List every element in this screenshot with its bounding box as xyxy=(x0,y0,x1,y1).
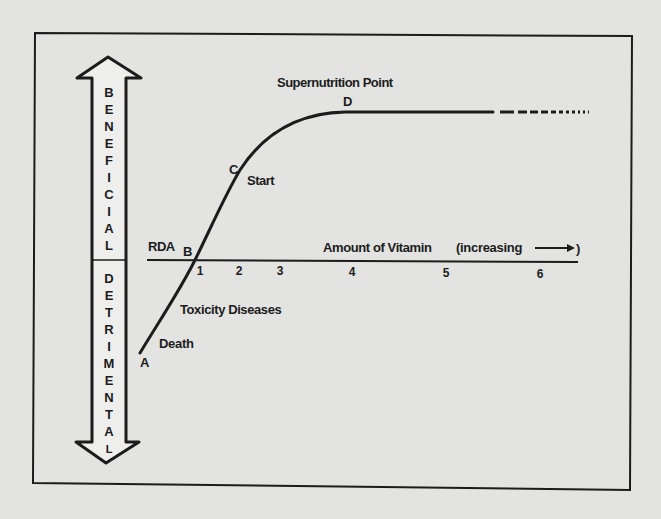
tick-label: 2 xyxy=(236,264,243,278)
x-axis-direction-note: (increasing xyxy=(456,240,522,255)
detrimental-letter: E xyxy=(105,288,114,303)
x-axis-ticks: 1 2 3 4 5 6 xyxy=(197,264,544,281)
detrimental-letter: A xyxy=(104,424,114,439)
detrimental-letter: T xyxy=(105,407,113,422)
beneficial-letter: N xyxy=(104,119,113,134)
beneficial-letter: F xyxy=(105,153,113,168)
beneficial-letter: E xyxy=(105,102,114,117)
detrimental-letter: E xyxy=(105,373,114,388)
beneficial-letter: E xyxy=(105,136,114,151)
point-d-letter: D xyxy=(343,94,352,109)
tick-label: 1 xyxy=(197,264,204,278)
beneficial-letter: A xyxy=(104,221,114,236)
detrimental-letter: R xyxy=(104,322,114,337)
vitamin-response-diagram: B E N E F I C I A L D E T R I M E N T A … xyxy=(0,0,661,519)
point-c-letter: C xyxy=(229,162,239,177)
detrimental-letter: I xyxy=(107,339,111,354)
beneficial-letter: L xyxy=(105,238,113,253)
tick-label: 5 xyxy=(443,266,450,280)
beneficial-letter: C xyxy=(104,187,114,202)
detrimental-letter: N xyxy=(104,390,113,405)
tick-label: 6 xyxy=(537,267,544,281)
point-a-label: Death xyxy=(159,336,194,351)
point-d-label: Supernutrition Point xyxy=(277,75,394,90)
toxicity-diseases-label: Toxicity Diseases xyxy=(180,302,282,317)
detrimental-label: D E T R I M E N T A L xyxy=(104,271,115,455)
beneficial-letter: I xyxy=(107,204,111,219)
x-axis-line xyxy=(147,260,578,262)
increasing-arrow-icon xyxy=(535,244,575,252)
x-axis-title: Amount of Vitamin xyxy=(323,240,432,255)
point-b-label: RDA xyxy=(148,239,176,254)
beneficial-letter: B xyxy=(104,85,113,100)
x-axis-close-paren: ) xyxy=(576,241,580,256)
detrimental-letter: D xyxy=(104,271,113,286)
detrimental-letter: M xyxy=(104,356,115,371)
point-b-letter: B xyxy=(183,244,192,259)
beneficial-letter: I xyxy=(107,170,111,185)
tick-label: 3 xyxy=(277,264,284,278)
tick-label: 4 xyxy=(349,265,356,279)
point-a-letter: A xyxy=(140,355,150,370)
point-c-label: Start xyxy=(247,173,275,188)
detrimental-letter: T xyxy=(105,305,113,320)
detrimental-letter: L xyxy=(106,443,113,455)
